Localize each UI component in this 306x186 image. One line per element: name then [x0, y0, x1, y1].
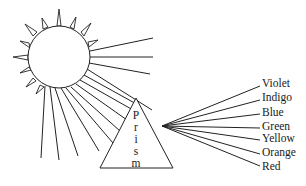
label-blue: Blue: [262, 106, 284, 118]
spectrum-rays: [162, 86, 260, 166]
prism-letter-m: m: [132, 157, 141, 169]
label-red: Red: [262, 160, 281, 172]
prism-letter-i: i: [134, 133, 137, 145]
prism-letter-r: r: [134, 121, 138, 133]
prism-letter-p: P: [133, 109, 139, 121]
label-indigo: Indigo: [262, 91, 292, 104]
sun-icon: [28, 26, 90, 88]
label-yellow: Yellow: [262, 132, 295, 144]
spectrum-labels: Violet Indigo Blue Green Yellow Orange R…: [262, 77, 296, 172]
prism-letter-s: s: [134, 145, 139, 157]
label-violet: Violet: [262, 77, 291, 89]
label-orange: Orange: [262, 146, 296, 159]
prism-diagram: P r i s m Violet Indigo Blue Green Yello…: [0, 0, 306, 186]
label-green: Green: [262, 120, 290, 132]
